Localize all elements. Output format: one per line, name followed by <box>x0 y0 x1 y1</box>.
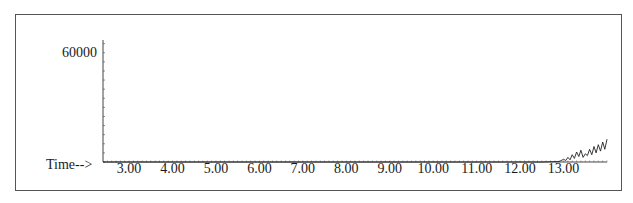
signal-trace <box>103 139 607 162</box>
axes <box>103 40 607 162</box>
chromatogram-plot <box>0 0 633 203</box>
